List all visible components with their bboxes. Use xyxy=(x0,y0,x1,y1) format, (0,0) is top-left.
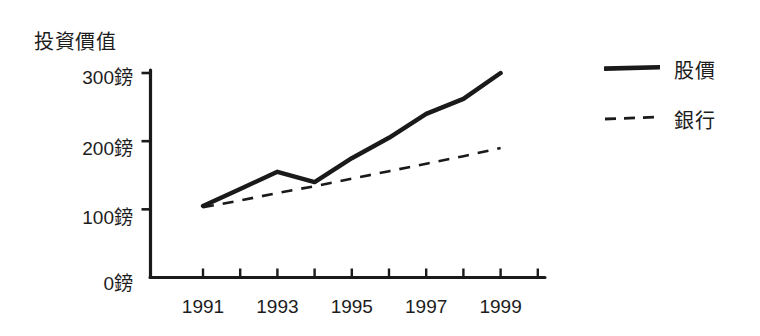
data-series-layer xyxy=(203,73,501,207)
series-line-stock xyxy=(203,73,501,206)
legend-solid-line-icon xyxy=(604,64,660,72)
legend-dashed-line-icon xyxy=(604,114,660,122)
axis-lines xyxy=(150,70,545,278)
legend-item-bank: 銀行 xyxy=(604,102,754,152)
chart-legend: 股價 銀行 xyxy=(604,52,754,152)
legend-label-stock: 股價 xyxy=(674,55,715,84)
legend-item-stock: 股價 xyxy=(604,52,754,102)
legend-label-bank: 銀行 xyxy=(674,105,715,134)
chart-container: 投資價值 300鎊 200鎊 100鎊 0鎊 1991 1993 1995 19… xyxy=(0,0,760,336)
plot-area xyxy=(0,0,760,336)
